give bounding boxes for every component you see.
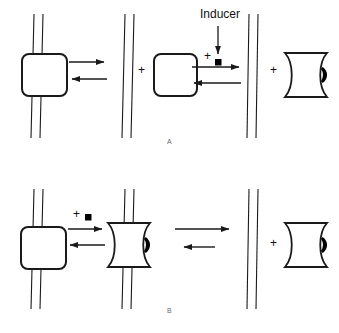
- figure-root: Inducer + + + A: [0, 0, 339, 333]
- repressor-bound-shape: [21, 227, 66, 269]
- plus-sign-dna-repressor: +: [138, 64, 145, 76]
- free-repressor-shape: [154, 54, 197, 96]
- repressor-bound-shape: [22, 54, 67, 96]
- inducer-repressor-complex-shape: [285, 53, 327, 97]
- inducer-label: Inducer: [178, 7, 262, 21]
- dna-strand-right: [247, 14, 258, 138]
- plus-sign-dna-complex: +: [270, 64, 277, 76]
- panel-a: Inducer + + + A: [0, 0, 339, 167]
- plus-sign-dna-complex: +: [270, 237, 277, 249]
- dna-strand-right: [247, 189, 258, 309]
- complex-bound-shape: [108, 223, 150, 267]
- inducer-repressor-complex-shape: [285, 223, 327, 267]
- inducer-square-icon: [85, 214, 92, 221]
- panel-b: + + B: [0, 167, 339, 333]
- plus-sign-inducer: +: [73, 208, 80, 220]
- panel-a-label: A: [0, 138, 339, 145]
- dna-strand-middle: [122, 14, 134, 138]
- plus-sign-inducer: +: [204, 50, 211, 62]
- panel-b-label: B: [0, 307, 339, 314]
- inducer-square-icon: [215, 59, 222, 66]
